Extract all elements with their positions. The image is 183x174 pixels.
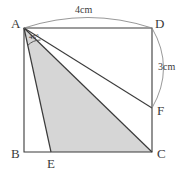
dimension-arc-top <box>24 18 152 29</box>
angle-label-45: 45° <box>29 34 39 41</box>
vertex-label-f: F <box>157 104 164 117</box>
geometry-figure: A B C D E F 4cm 3cm 45° <box>0 0 183 174</box>
dimension-label-top: 4cm <box>75 5 92 15</box>
vertex-label-d: D <box>155 17 164 30</box>
vertex-label-e: E <box>47 157 55 170</box>
vertex-label-c: C <box>157 147 166 160</box>
vertex-label-b: B <box>11 147 20 160</box>
dimension-label-right: 3cm <box>158 62 175 72</box>
vertex-label-a: A <box>11 17 20 30</box>
